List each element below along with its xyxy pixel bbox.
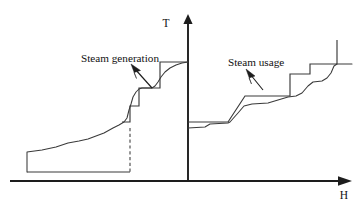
steam-curve-svg: T H Steam generation Steam usage (0, 0, 359, 205)
steam-generation-pointer-line (135, 69, 152, 88)
y-axis-label: T (162, 17, 169, 29)
x-axis-label: H (340, 189, 348, 201)
steam-generation-step-curve (122, 62, 188, 122)
steam-usage-arrow-icon (246, 69, 255, 84)
y-axis-arrowhead-icon (183, 14, 192, 24)
steam-generation-label: Steam generation (81, 52, 159, 64)
y-axis (183, 14, 192, 181)
steam-generation-arrow-icon (131, 64, 141, 79)
steam-usage-step-curve (188, 40, 337, 122)
x-axis (10, 176, 352, 185)
steam-generation-pointer (131, 64, 152, 88)
x-axis-arrowhead-icon (338, 176, 352, 185)
steam-generation-smooth-curve (27, 62, 188, 172)
steam-curve-figure: T H Steam generation Steam usage (0, 0, 359, 205)
steam-usage-pointer (246, 69, 263, 90)
steam-usage-label: Steam usage (228, 56, 284, 68)
